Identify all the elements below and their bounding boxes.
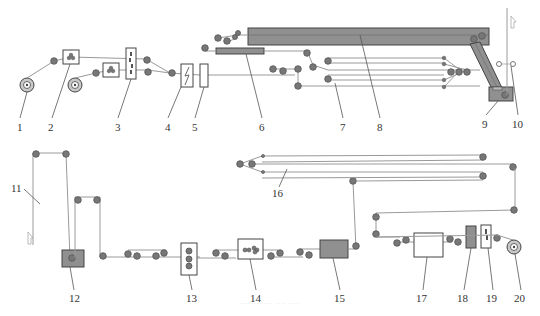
down-arrow-icon — [28, 232, 33, 244]
roller — [100, 253, 107, 260]
label-1: 1 — [17, 121, 23, 133]
label-4: 4 — [165, 121, 171, 133]
label-10: 10 — [512, 118, 524, 130]
unit-10-pinch-rollers — [497, 62, 516, 67]
unit-8-long-beam — [248, 28, 503, 93]
unwind-roll-second — [68, 78, 82, 92]
rewind-roll-20 — [507, 240, 521, 254]
unit-18-dark-box — [466, 226, 476, 248]
roller — [169, 70, 176, 77]
roller — [270, 66, 277, 73]
label-9: 9 — [482, 118, 488, 130]
unit-16-drying-loops — [237, 154, 517, 181]
unit-14-roller-box — [238, 239, 263, 259]
roller — [161, 250, 168, 257]
roller — [63, 151, 70, 158]
roller — [33, 151, 40, 158]
roller — [202, 45, 209, 52]
unit-2-triple-roller-box — [63, 50, 79, 64]
roller — [479, 33, 486, 40]
roller — [353, 243, 360, 250]
roller — [93, 70, 100, 77]
unit-5-box — [200, 64, 208, 87]
roller — [277, 250, 284, 257]
roller — [403, 237, 410, 244]
roller — [222, 253, 229, 260]
roller — [310, 64, 317, 71]
triple-roller-box-second — [103, 63, 119, 77]
roller — [297, 249, 304, 256]
label-16: 16 — [272, 187, 284, 199]
roller — [447, 236, 454, 243]
unit-19-narrow-box — [481, 225, 491, 248]
roller — [511, 207, 518, 214]
label-8: 8 — [377, 121, 383, 133]
unit-6-strip — [216, 48, 264, 54]
roller — [350, 178, 357, 185]
roller — [373, 231, 380, 238]
roller — [51, 58, 58, 65]
label-5: 5 — [192, 121, 198, 133]
unit-12-dark-box — [62, 250, 84, 267]
up-arrow-icon — [511, 16, 516, 28]
roller — [94, 197, 101, 204]
roller — [224, 38, 231, 45]
unit-3-vertical-box — [126, 48, 136, 79]
roller — [213, 250, 220, 257]
process-diagram: 1 2 3 4 5 6 7 8 9 10 11 12 13 14 15 16 1… — [0, 0, 540, 316]
roller — [236, 31, 241, 36]
roller — [295, 66, 302, 73]
roller — [373, 214, 380, 221]
figure-caption: ··· ···· ··· ···· ···· — [0, 300, 540, 308]
roller — [215, 35, 222, 42]
roller — [145, 69, 152, 76]
roller — [306, 252, 313, 259]
roller — [144, 57, 151, 64]
roller — [75, 197, 82, 204]
roller — [471, 36, 478, 43]
label-2: 2 — [48, 121, 54, 133]
label-3: 3 — [115, 121, 121, 133]
unit-9-box — [489, 87, 513, 101]
unwind-roll-1 — [20, 78, 34, 92]
label-7: 7 — [340, 121, 346, 133]
roller — [394, 240, 401, 247]
label-11: 11 — [11, 182, 22, 194]
roller — [304, 50, 311, 57]
roller — [153, 253, 160, 260]
unit-15-dark-box — [320, 240, 348, 258]
unit-7-festoon — [325, 56, 471, 89]
roller — [134, 253, 141, 260]
roller — [125, 251, 132, 258]
roller — [280, 68, 287, 75]
roller — [268, 253, 275, 260]
label-6: 6 — [259, 121, 265, 133]
roller — [455, 239, 462, 246]
roller — [295, 83, 302, 90]
unit-4-corona-box — [181, 64, 193, 87]
unit-13-vertical-rollers — [181, 243, 197, 275]
